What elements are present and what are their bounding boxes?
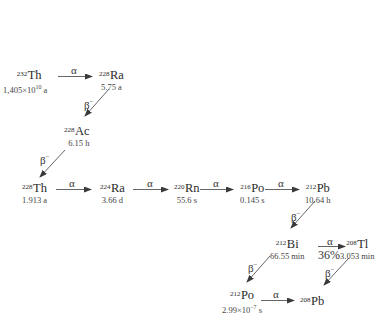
half-life: 3.66 d xyxy=(100,195,125,206)
mass-number: 208 xyxy=(346,239,357,247)
nuclide-ra224: 224Ra 3.66 d xyxy=(100,182,125,206)
half-life: 6.15 h xyxy=(68,138,90,149)
decay-charge: − xyxy=(297,210,301,218)
nuclide-po216: 216Po 0.145 s xyxy=(240,182,265,206)
decay-mode: α xyxy=(327,235,333,247)
mass-number: 228 xyxy=(99,70,110,78)
mass-number: 220 xyxy=(174,183,185,191)
decay-label-ac228-th228: β− xyxy=(40,152,50,166)
decay-label-po216-pb212: α xyxy=(278,178,284,189)
element-symbol: Ra xyxy=(110,68,124,82)
decay-charge: − xyxy=(254,261,258,269)
decay-arrows xyxy=(0,0,389,331)
half-life-unit: a xyxy=(41,85,47,95)
decay-mode: α xyxy=(273,288,279,300)
element-symbol: Pb xyxy=(317,181,330,195)
decay-mode: α xyxy=(278,177,284,189)
decay-charge: − xyxy=(90,98,94,106)
decay-label-th228-ra224: α xyxy=(69,178,75,189)
decay-label-pb212-bi212: β− xyxy=(291,209,301,223)
half-life: 1,405×1010 a xyxy=(3,82,47,96)
half-life: 0.145 s xyxy=(240,195,265,206)
decay-label-bi212-po212: β− xyxy=(248,260,258,274)
decay-mode: α xyxy=(71,64,77,76)
half-life: 1.913 a xyxy=(22,195,47,206)
decay-label-tl208-pb208: β− xyxy=(325,265,335,279)
nuclide-pb212: 212Pb 10.64 h xyxy=(305,182,331,206)
mass-number: 228 xyxy=(22,183,33,191)
mass-number: 228 xyxy=(64,126,75,134)
mass-number: 216 xyxy=(240,183,251,191)
mass-number: 208 xyxy=(300,296,311,304)
element-symbol: Tl xyxy=(357,237,368,251)
nuclide-ra228: 228Ra 5.75 a xyxy=(99,69,124,93)
half-life: 10.64 h xyxy=(305,195,331,206)
nuclide-ac228: 228Ac 6.15 h xyxy=(64,125,90,149)
decay-mode: α xyxy=(213,177,219,189)
element-symbol: Rn xyxy=(185,181,200,195)
half-life-base: 1,405×10 xyxy=(3,85,35,95)
element-symbol: Ra xyxy=(111,181,125,195)
element-symbol: Po xyxy=(251,181,264,195)
decay-charge: − xyxy=(46,153,50,161)
decay-label-rn220-po216: α xyxy=(213,178,219,189)
half-life: 5.75 a xyxy=(99,82,124,93)
element-symbol: Th xyxy=(33,181,47,195)
element-symbol: Po xyxy=(241,288,254,302)
nuclide-bi212: 212Bi 66.55 min xyxy=(270,238,304,262)
element-symbol: Th xyxy=(28,68,42,82)
decay-label-po212-pb208: α xyxy=(273,289,279,300)
half-life: 2.99×10−7 s xyxy=(222,302,262,316)
nuclide-po212: 212Po 2.99×10−7 s xyxy=(222,289,262,316)
element-symbol: Bi xyxy=(287,237,299,251)
half-life: 3.053 min xyxy=(340,251,374,262)
mass-number: 212 xyxy=(230,290,241,298)
decay-label-bi212-tl208: α xyxy=(327,236,333,247)
mass-number: 224 xyxy=(100,183,111,191)
element-symbol: Pb xyxy=(311,294,324,308)
mass-number: 232 xyxy=(17,70,28,78)
nuclide-pb208: 208Pb xyxy=(300,295,324,308)
half-life: 55.6 s xyxy=(174,195,200,206)
mass-number: 212 xyxy=(276,239,287,247)
decay-label-th232-ra228: α xyxy=(71,65,77,76)
half-life-base: 2.99×10 xyxy=(222,305,250,315)
decay-mode: α xyxy=(147,177,153,189)
decay-charge: − xyxy=(331,266,335,274)
element-symbol: Ac xyxy=(75,124,90,138)
half-life: 66.55 min xyxy=(270,251,304,262)
decay-label-ra224-rn220: α xyxy=(147,178,153,189)
decay-mode: α xyxy=(69,177,75,189)
nuclide-th228: 228Th 1.913 a xyxy=(22,182,47,206)
nuclide-rn220: 220Rn 55.6 s xyxy=(174,182,200,206)
decay-label-ra228-ac228: β− xyxy=(84,97,94,111)
half-life-unit: s xyxy=(257,305,262,315)
mass-number: 212 xyxy=(306,183,317,191)
branch-ratio: 36% xyxy=(318,248,340,263)
nuclide-th232: 232Th 1,405×1010 a xyxy=(11,69,47,96)
nuclide-tl208: 208Tl 3.053 min xyxy=(340,238,374,262)
